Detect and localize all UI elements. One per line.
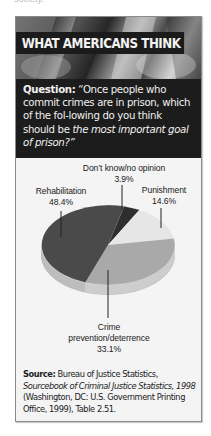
source-citation: Source: Bureau of Justice Statistics, So… [23,369,197,415]
banner-title: WHAT AMERICANS THINK [16,32,184,54]
label-rehabilitation: Rehabilitation 48.4% [33,185,89,207]
label-rehabilitation-value: 48.4% [33,196,89,207]
question-label: Question: [23,84,75,95]
banner-photo: WHAT AMERICANS THINK [16,17,201,79]
label-dont-know-name: Don’t know/no opinion [79,162,169,173]
label-crime-prevention-name: Crimeprevention/deterrence [60,321,159,343]
label-crime-prevention-value: 33.1% [60,343,159,354]
label-rehabilitation-name: Rehabilitation [33,185,89,196]
source-publisher: (Washington, DC: U.S. Government Printin… [23,392,185,414]
pie-chart: Don’t know/no opinion 3.9% Punishment 14… [16,158,201,358]
source-title: Sourcebook of Criminal Justice Statistic… [23,381,195,391]
label-punishment: Punishment 14.6% [139,184,189,206]
label-crime-prevention: Crimeprevention/deterrence 33.1% [60,321,159,354]
label-punishment-name: Punishment [139,184,189,195]
label-punishment-value: 14.6% [139,195,189,206]
label-dont-know-value: 3.9% [79,173,169,184]
source-text: Bureau of Justice Statistics, [55,369,158,379]
source-label: Source: [23,369,55,379]
what-americans-think-card: WHAT AMERICANS THINK Question: “Once peo… [15,16,202,422]
cropped-text-fragment: society. [14,0,44,4]
question-panel: Question: “Once people who commit crimes… [16,79,201,158]
label-dont-know: Don’t know/no opinion 3.9% [79,162,169,184]
